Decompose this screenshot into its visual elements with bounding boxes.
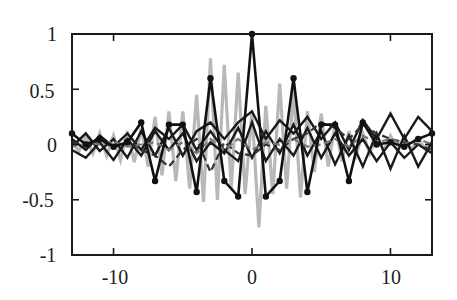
y-tick-label-neg1: -1 [40,244,57,266]
data-point-marker [138,119,144,125]
y-tick-label-0.5: 0.5 [30,80,55,102]
data-point-marker [263,193,269,199]
data-point-marker [152,178,158,184]
data-point-marker [346,178,352,184]
x-tick-label-neg10: -10 [102,266,129,288]
y-tick-label-0: 0 [47,134,57,156]
data-point-marker [360,119,366,125]
data-point-marker [207,75,213,81]
x-tick-label-10: 10 [381,266,401,288]
data-point-marker [304,189,310,195]
y-tick-label-neg0.5: -0.5 [22,189,54,211]
data-point-marker [166,121,172,127]
chart: 1 0.5 0 -0.5 -1 -10 0 10 [0,0,457,300]
data-point-marker [110,144,116,150]
data-point-marker [290,75,296,81]
data-point-marker [318,121,324,127]
data-point-marker [276,178,282,184]
data-point-marker [373,141,379,147]
data-point-marker [332,121,338,127]
data-point-marker [193,189,199,195]
x-tick-label-0: 0 [247,266,257,288]
series-layer [69,31,435,228]
data-point-marker [415,136,421,142]
data-point-marker [387,139,393,145]
data-point-marker [221,178,227,184]
data-point-marker [83,141,89,147]
data-point-marker [401,144,407,150]
data-point-marker [96,136,102,142]
data-point-marker [124,139,130,145]
y-tick-label-1: 1 [47,23,57,45]
data-point-marker [180,121,186,127]
data-point-marker [235,193,241,199]
